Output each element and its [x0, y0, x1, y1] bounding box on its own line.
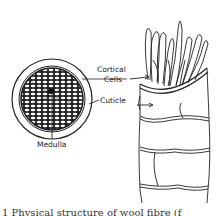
- medulla-label: Medulla: [37, 141, 66, 149]
- longitudinal-fibre: [130, 21, 210, 203]
- cuticle-label: Cuticle: [100, 97, 126, 105]
- figure-caption-text: 1 Physical structure of wool fibre (f: [2, 207, 181, 216]
- cortical-cells-label-line1: Cortical: [97, 66, 126, 74]
- wool-fibre-diagram: Cortical Cells Cuticle Medulla 1 Physica…: [0, 0, 220, 216]
- cortical-cells-label-line2: Cells: [104, 76, 122, 84]
- diagram-drawing: [0, 0, 220, 216]
- figure-caption: 1 Physical structure of wool fibre (f: [0, 207, 220, 216]
